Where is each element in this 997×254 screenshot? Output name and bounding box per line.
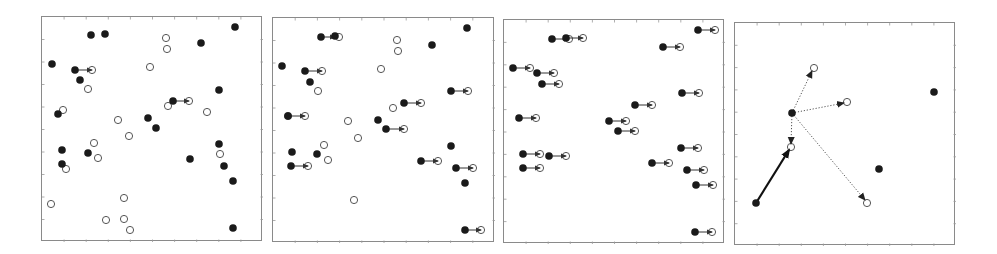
displacement-arrow — [756, 150, 789, 203]
open-particle — [47, 200, 54, 207]
filled-particle — [417, 157, 425, 165]
filled-particle — [875, 165, 883, 173]
filled-particle — [545, 152, 553, 160]
open-particle — [393, 36, 400, 43]
filled-particle — [317, 33, 325, 41]
filled-particle — [48, 60, 56, 68]
panel-4-plot — [735, 23, 956, 246]
filled-particle — [452, 164, 460, 172]
filled-particle — [631, 101, 639, 109]
panel-1 — [41, 16, 262, 241]
open-particle — [324, 156, 331, 163]
filled-particle — [605, 117, 613, 125]
filled-particle — [331, 32, 339, 40]
open-particle — [389, 104, 396, 111]
filled-particle — [76, 76, 84, 84]
filled-particle — [301, 67, 309, 75]
filled-particle — [58, 160, 66, 168]
filled-particle — [313, 150, 321, 158]
filled-particle — [287, 162, 295, 170]
open-particle — [102, 216, 109, 223]
filled-particle — [533, 69, 541, 77]
filled-particle — [648, 159, 656, 167]
filled-particle — [215, 140, 223, 148]
filled-particle — [692, 181, 700, 189]
filled-particle — [428, 41, 436, 49]
panel-1-plot — [42, 17, 263, 242]
open-particle — [354, 134, 361, 141]
filled-particle — [461, 179, 469, 187]
filled-particle — [447, 87, 455, 95]
filled-particle — [169, 97, 177, 105]
filled-particle — [461, 226, 469, 234]
open-particle — [94, 154, 101, 161]
filled-particle — [306, 78, 314, 86]
filled-particle — [930, 88, 938, 96]
filled-particle — [288, 148, 296, 156]
filled-particle — [463, 24, 471, 32]
open-particle — [787, 143, 794, 150]
panel-4 — [734, 22, 955, 245]
filled-particle — [694, 26, 702, 34]
open-particle — [120, 215, 127, 222]
panel-2-plot — [273, 18, 495, 243]
filled-particle — [788, 109, 796, 117]
filled-particle — [87, 31, 95, 39]
open-particle — [114, 116, 121, 123]
filled-particle — [509, 64, 517, 72]
filled-particle — [614, 127, 622, 135]
open-particle — [84, 85, 91, 92]
filled-particle — [519, 164, 527, 172]
filled-particle — [152, 124, 160, 132]
filled-particle — [374, 116, 382, 124]
open-particle — [125, 132, 132, 139]
open-particle — [863, 199, 870, 206]
open-particle — [90, 139, 97, 146]
filled-particle — [678, 89, 686, 97]
filled-particle — [519, 150, 527, 158]
filled-particle — [659, 43, 667, 51]
filled-particle — [548, 35, 556, 43]
open-particle — [146, 63, 153, 70]
filled-particle — [515, 114, 523, 122]
filled-particle — [284, 112, 292, 120]
panel-3-plot — [504, 20, 725, 244]
filled-particle — [382, 125, 390, 133]
open-particle — [314, 87, 321, 94]
open-particle — [377, 65, 384, 72]
filled-particle — [229, 177, 237, 185]
axis-ticks — [42, 17, 263, 242]
open-particle — [843, 98, 850, 105]
filled-particle — [197, 39, 205, 47]
open-particle — [320, 141, 327, 148]
axis-ticks — [735, 23, 956, 246]
open-particle — [394, 47, 401, 54]
filled-particle — [54, 110, 62, 118]
panel-3 — [503, 19, 724, 243]
filled-particle — [538, 80, 546, 88]
panel-2 — [272, 17, 494, 242]
filled-particle — [752, 199, 760, 207]
filled-particle — [447, 142, 455, 150]
open-particle — [126, 226, 133, 233]
filled-particle — [220, 162, 228, 170]
filled-particle — [144, 114, 152, 122]
filled-particle — [691, 228, 699, 236]
filled-particle — [215, 86, 223, 94]
filled-particle — [231, 23, 239, 31]
open-particle — [216, 150, 223, 157]
open-particle — [350, 196, 357, 203]
filled-particle — [278, 62, 286, 70]
displacement-arrow — [792, 113, 865, 200]
filled-particle — [186, 155, 194, 163]
filled-particle — [229, 224, 237, 232]
filled-particle — [58, 146, 66, 154]
displacement-arrow — [792, 103, 844, 113]
filled-particle — [683, 166, 691, 174]
open-particle — [120, 194, 127, 201]
open-particle — [203, 108, 210, 115]
displacement-arrow — [792, 71, 812, 113]
filled-particle — [400, 99, 408, 107]
filled-particle — [101, 30, 109, 38]
filled-particle — [71, 66, 79, 74]
